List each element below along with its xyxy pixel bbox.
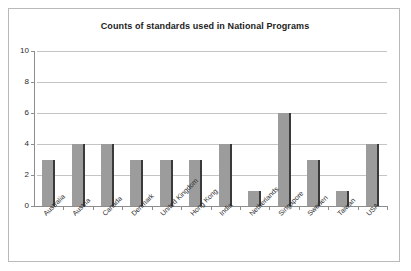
- x-axis-tick-mark: [328, 206, 329, 210]
- gridline: [37, 175, 387, 176]
- x-axis-tick-mark: [93, 206, 94, 210]
- y-axis-tick-mark: [31, 51, 35, 52]
- x-axis-tick-mark: [122, 206, 123, 210]
- bar: [278, 113, 291, 206]
- y-axis-tick-mark: [31, 206, 35, 207]
- bar: [366, 144, 379, 206]
- y-axis-tick-label: 8: [25, 78, 29, 86]
- gridline: [37, 113, 387, 114]
- gridline: [37, 144, 387, 145]
- x-axis-tick-mark: [63, 206, 64, 210]
- x-axis-tick-mark: [269, 206, 270, 210]
- y-axis-tick-mark: [31, 144, 35, 145]
- x-axis-tick-mark: [299, 206, 300, 210]
- y-axis-line: [34, 51, 35, 207]
- plot-area: 0246810 AustraliaAustriaCanadaDenmarkUni…: [34, 51, 387, 206]
- y-axis-tick-label: 0: [25, 202, 29, 210]
- x-axis-tick-mark: [387, 206, 388, 210]
- gridline: [37, 51, 387, 52]
- y-axis-tick-label: 6: [25, 109, 29, 117]
- chart-title: Counts of standards used in National Pro…: [9, 21, 401, 31]
- bar: [219, 144, 232, 206]
- y-axis-tick-mark: [31, 82, 35, 83]
- bar: [101, 144, 114, 206]
- x-axis-tick-mark: [240, 206, 241, 210]
- chart-frame: Counts of standards used in National Pro…: [8, 8, 400, 262]
- y-axis-tick-label: 10: [20, 47, 29, 55]
- bar: [72, 144, 85, 206]
- y-axis-tick-label: 2: [25, 171, 29, 179]
- x-axis-tick-mark: [181, 206, 182, 210]
- y-axis-tick-mark: [31, 113, 35, 114]
- gridline: [37, 82, 387, 83]
- y-axis-tick-label: 4: [25, 140, 29, 148]
- x-axis-tick-mark: [152, 206, 153, 210]
- y-axis-tick-mark: [31, 175, 35, 176]
- x-axis-tick-mark: [358, 206, 359, 210]
- x-axis-tick-mark: [211, 206, 212, 210]
